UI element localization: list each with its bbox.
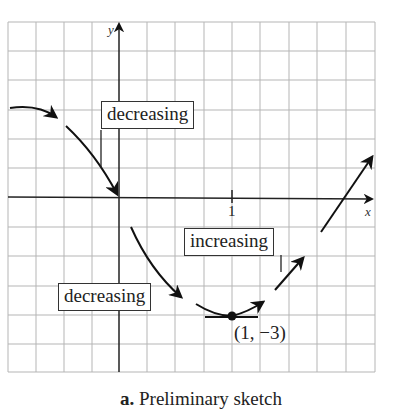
graph-canvas	[0, 0, 402, 416]
decreasing-label-lower: decreasing	[58, 283, 151, 311]
minimum-point	[228, 312, 237, 321]
x-tick-label: 1	[228, 203, 236, 220]
decreasing-label-upper: decreasing	[101, 101, 194, 129]
x-axis-label: x	[365, 204, 371, 220]
caption-text: Preliminary sketch	[139, 388, 282, 409]
minimum-point-label: (1, −3)	[234, 322, 286, 344]
y-axis-label: y	[108, 22, 114, 38]
caption-letter: a.	[120, 388, 134, 409]
increasing-label: increasing	[184, 228, 274, 256]
figure-caption: a. Preliminary sketch	[0, 388, 402, 410]
